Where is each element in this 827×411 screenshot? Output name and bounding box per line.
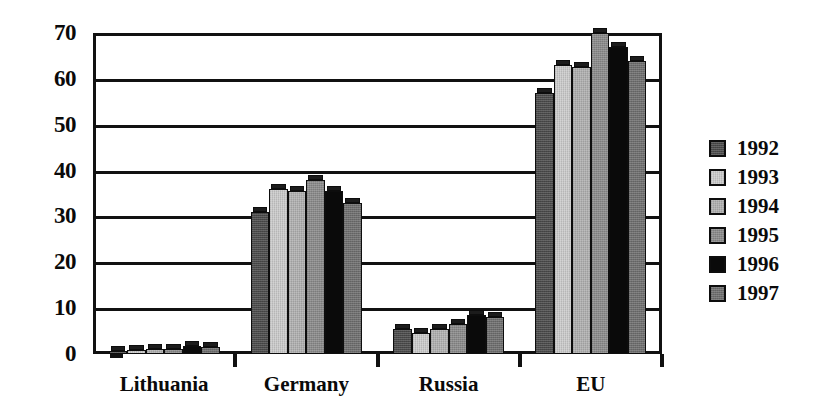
bar [109,345,128,354]
legend-item-1996[interactable]: 1996 [709,250,819,279]
legend-label: 1993 [737,167,779,188]
bar-body [412,333,431,354]
x-axis-tick-mark [660,354,664,367]
legend-swatch-icon [709,256,726,273]
bar [535,87,554,354]
bar-body [269,189,288,354]
bar-group [378,33,520,354]
legend-label: 1995 [737,225,779,246]
x-axis: LithuaniaGermanyRussiaEU [93,354,662,404]
y-axis-tick-label: 40 [26,159,76,182]
bar [146,343,165,354]
legend-item-1992[interactable]: 1992 [709,134,819,163]
bar [306,174,325,354]
x-axis-tick-mark [376,354,380,367]
bar-body [251,212,270,354]
bar-body [554,65,573,354]
y-axis-tick-label: 30 [26,204,76,227]
bar-body [609,47,628,354]
bar-body [467,315,486,354]
x-axis-category-label: EU [520,372,662,397]
bar-body [325,191,344,354]
bar [325,185,344,354]
bar [269,183,288,354]
bar [591,27,610,354]
legend-swatch-icon [709,198,726,215]
bar-body [430,329,449,354]
bar [343,197,362,354]
bar-body [628,61,647,354]
y-axis: 010203040506070 [30,14,86,374]
bar-body [183,346,202,354]
y-axis-tick-label: 20 [26,250,76,273]
legend-item-1997[interactable]: 1997 [709,279,819,308]
legend-item-1995[interactable]: 1995 [709,221,819,250]
bar-chart: 010203040506070 LithuaniaGermanyRussiaEU… [0,0,827,411]
bar-body [306,180,325,354]
bar [486,311,505,354]
bar [288,185,307,354]
bar [183,340,202,354]
bar [164,343,183,355]
legend-swatch-icon [709,227,726,244]
bar-group [93,33,235,354]
bar-group [235,33,377,354]
y-axis-tick-label: 70 [26,21,76,44]
bar-body [535,93,554,354]
bar-body [486,317,505,354]
bar [609,41,628,354]
bar-body [201,347,220,354]
bar-body [288,191,307,354]
legend-swatch-icon [709,285,726,302]
x-axis-tick-mark [518,354,522,367]
legend-label: 1992 [737,138,779,159]
legend: 199219931994199519961997 [709,134,819,308]
bar [251,206,270,354]
legend-swatch-icon [709,169,726,186]
bar [430,323,449,354]
bar [572,61,591,354]
legend-swatch-icon [709,140,726,157]
bar-body [591,33,610,354]
y-axis-tick-label: 0 [26,342,76,365]
y-axis-tick-label: 10 [26,296,76,319]
y-axis-tick-label: 50 [26,113,76,136]
bar [412,327,431,354]
bar-body [449,324,468,354]
y-axis-tick-label: 60 [26,67,76,90]
legend-label: 1994 [737,196,779,217]
x-axis-category-label: Lithuania [93,372,235,397]
bar-body [393,329,412,354]
bar [467,309,486,354]
bar-group [520,33,662,354]
legend-item-1994[interactable]: 1994 [709,192,819,221]
bar [393,323,412,354]
legend-label: 1997 [737,283,779,304]
bar-body [572,67,591,354]
legend-label: 1996 [737,254,779,275]
legend-item-1993[interactable]: 1993 [709,163,819,192]
bar [449,318,468,354]
bars-layer [93,33,662,354]
bar [201,341,220,354]
bar [127,344,146,354]
x-axis-category-label: Germany [235,372,377,397]
bar-body [343,203,362,354]
bar [554,59,573,354]
x-axis-tick-mark [233,354,237,367]
x-axis-category-label: Russia [378,372,520,397]
bar [628,55,647,354]
